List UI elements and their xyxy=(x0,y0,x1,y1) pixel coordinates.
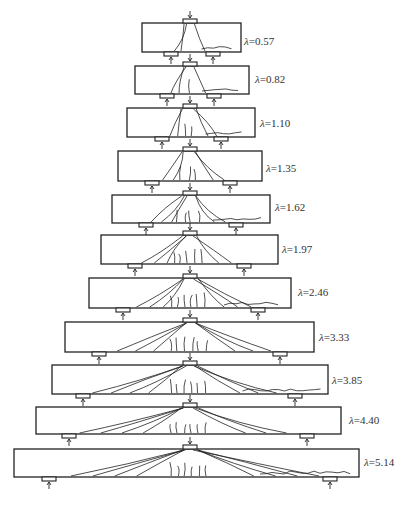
lambda-label-5: λ=1.62 xyxy=(275,201,305,213)
lambda-label-2: λ=0.82 xyxy=(255,73,285,85)
beam-specimen-2 xyxy=(135,54,249,106)
left-support-plate xyxy=(139,223,153,227)
lambda-label-6: λ=1.97 xyxy=(282,243,312,255)
beam-specimen-3 xyxy=(127,96,255,149)
left-support-plate xyxy=(155,137,169,141)
left-support-plate xyxy=(116,308,130,312)
left-support-plate xyxy=(92,352,106,356)
lambda-label-11: λ=5.14 xyxy=(364,456,394,468)
beam-specimen-8 xyxy=(65,310,314,364)
right-support-plate xyxy=(223,181,237,185)
load-plate xyxy=(183,403,197,407)
right-support-plate xyxy=(206,52,220,56)
right-support-plate xyxy=(214,137,228,141)
lambda-value: =1.35 xyxy=(271,162,296,174)
left-support-plate xyxy=(76,394,90,398)
beam-outline xyxy=(142,23,241,52)
lambda-value: =5.14 xyxy=(369,456,394,468)
beam-outline xyxy=(14,449,359,477)
beam-outline xyxy=(65,322,314,352)
left-support-plate xyxy=(42,477,56,481)
lambda-value: =3.85 xyxy=(337,374,362,386)
right-support-plate xyxy=(251,308,265,312)
lambda-value: =0.82 xyxy=(260,73,285,85)
lambda-value: =1.62 xyxy=(280,201,305,213)
lambda-value: =1.97 xyxy=(287,243,312,255)
right-support-plate xyxy=(207,94,221,98)
load-plate xyxy=(183,361,197,365)
beam-outline xyxy=(36,407,341,434)
left-support-plate xyxy=(164,52,178,56)
beam-outline xyxy=(52,365,328,394)
load-plate xyxy=(183,191,197,195)
lambda-label-8: λ=3.33 xyxy=(319,331,349,343)
right-support-plate xyxy=(288,394,302,398)
lambda-value: =2.46 xyxy=(303,286,328,298)
right-support-plate xyxy=(229,223,243,227)
lambda-label-10: λ=4.40 xyxy=(349,414,379,426)
load-plate xyxy=(183,231,197,235)
load-plate xyxy=(183,445,197,449)
lambda-value: =1.10 xyxy=(265,117,290,129)
lambda-value: =4.40 xyxy=(354,414,379,426)
beam-outline xyxy=(101,235,278,264)
right-support-plate xyxy=(323,477,337,481)
load-plate xyxy=(183,147,197,151)
lambda-label-3: λ=1.10 xyxy=(260,117,290,129)
lambda-label-4: λ=1.35 xyxy=(266,162,296,174)
left-support-plate xyxy=(62,434,76,438)
right-support-plate xyxy=(273,352,287,356)
right-support-plate xyxy=(300,434,314,438)
load-plate xyxy=(183,104,197,108)
left-support-plate xyxy=(128,264,142,268)
load-plate xyxy=(183,62,197,66)
beam-specimen-5 xyxy=(112,183,270,235)
lambda-label-9: λ=3.85 xyxy=(332,374,362,386)
lambda-label-1: λ=0.57 xyxy=(244,35,274,47)
load-plate xyxy=(183,318,197,322)
lambda-label-7: λ=2.46 xyxy=(298,286,328,298)
lambda-value: =3.33 xyxy=(324,331,349,343)
right-support-plate xyxy=(237,264,251,268)
left-support-plate xyxy=(145,181,159,185)
load-plate xyxy=(183,274,197,278)
lambda-value: =0.57 xyxy=(249,35,274,47)
beam-specimen-1 xyxy=(142,11,241,64)
left-support-plate xyxy=(160,94,174,98)
load-plate xyxy=(183,19,197,23)
beam-specimen-6 xyxy=(101,223,278,276)
beam-crack-diagram xyxy=(0,0,413,509)
